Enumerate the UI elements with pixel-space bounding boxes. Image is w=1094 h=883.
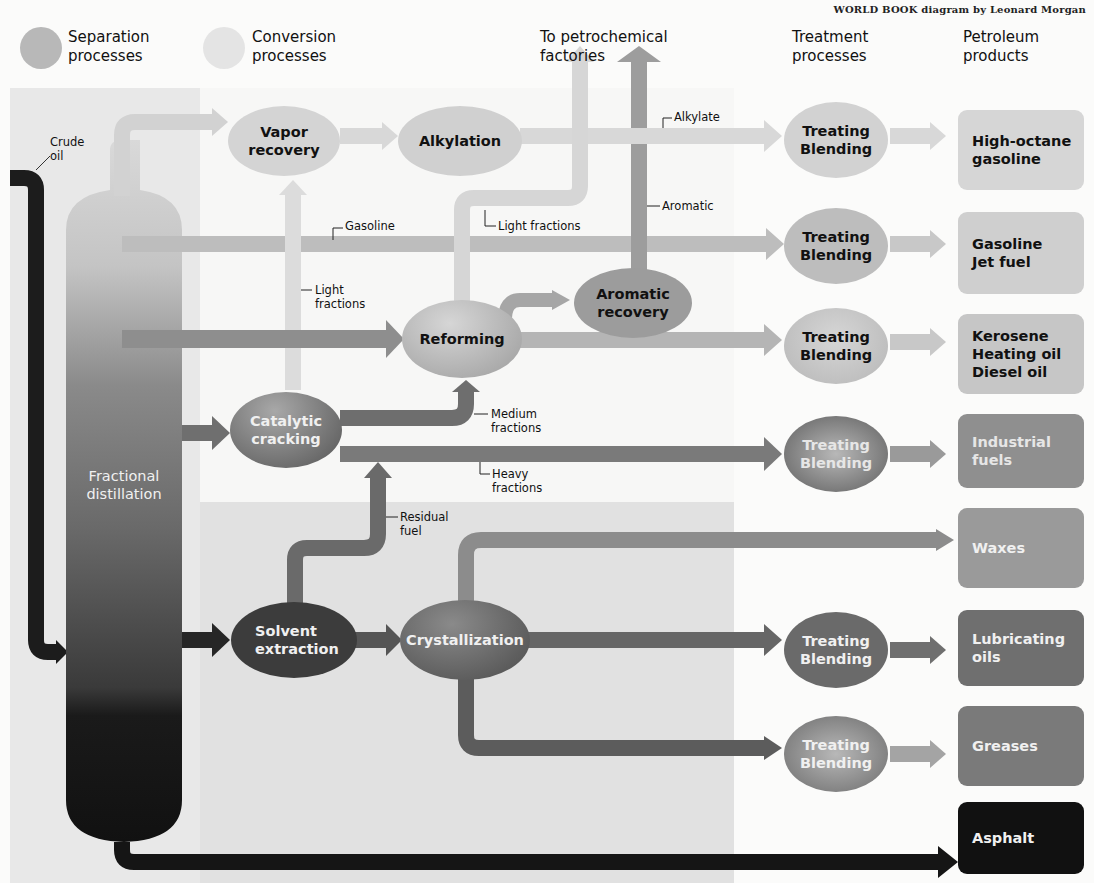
medium-fractions-label: Medium fractions	[491, 407, 541, 435]
refining-diagram: WORLD BOOK diagram by Leonard Morgan Sep…	[0, 0, 1094, 883]
petrochemical-header: To petrochemical factories	[540, 28, 668, 66]
flow-diagram-canvas	[0, 0, 1094, 883]
fractional-distillation-label: Fractional distillation	[66, 465, 182, 505]
heavy-fractions-label: Heavy fractions	[492, 467, 542, 495]
catalytic-cracking-node: Catalytic cracking	[230, 392, 342, 468]
treating-blending-4: Treating Blending	[784, 416, 888, 492]
crude-oil-label: Crude oil	[50, 135, 84, 163]
treating-blending-3: Treating Blending	[784, 308, 888, 384]
light-fractions-left-label: Light fractions	[315, 283, 365, 311]
treating-blending-2: Treating Blending	[784, 208, 888, 284]
aromatic-recovery-node: Aromatic recovery	[574, 268, 692, 338]
product-asphalt: Asphalt	[958, 802, 1084, 874]
product-industrial-fuels: Industrial fuels	[958, 414, 1084, 488]
product-greases: Greases	[958, 706, 1084, 786]
product-lubricating-oils: Lubricating oils	[958, 610, 1084, 686]
residual-fuel-label: Residual fuel	[400, 510, 449, 538]
treating-blending-5: Treating Blending	[784, 612, 888, 688]
gasoline-label: Gasoline	[345, 219, 395, 233]
alkylation-node: Alkylation	[398, 106, 522, 176]
conversion-legend-label: Conversion processes	[252, 28, 336, 66]
aromatic-label: Aromatic	[662, 199, 714, 213]
crystallization-node: Crystallization	[400, 600, 530, 680]
separation-legend-swatch	[20, 27, 62, 69]
product-waxes: Waxes	[958, 508, 1084, 588]
treatment-header: Treatment processes	[792, 28, 868, 66]
treating-blending-6: Treating Blending	[784, 716, 888, 792]
light-fractions-top-label: Light fractions	[498, 219, 581, 233]
treating-blending-1: Treating Blending	[784, 102, 888, 178]
vapor-recovery-node: Vapor recovery	[228, 106, 340, 176]
separation-legend-label: Separation processes	[68, 28, 150, 66]
product-kerosene-heating-diesel: Kerosene Heating oil Diesel oil	[958, 314, 1084, 394]
solvent-extraction-node: Solvent extraction	[231, 602, 357, 678]
alkylate-label: Alkylate	[674, 110, 720, 124]
products-header: Petroleum products	[963, 28, 1039, 66]
product-high-octane-gasoline: High-octane gasoline	[958, 110, 1084, 190]
product-gasoline-jet-fuel: Gasoline Jet fuel	[958, 212, 1084, 294]
conversion-legend-swatch	[203, 27, 245, 69]
diagram-credit: WORLD BOOK diagram by Leonard Morgan	[833, 4, 1086, 15]
reforming-node: Reforming	[402, 300, 522, 378]
